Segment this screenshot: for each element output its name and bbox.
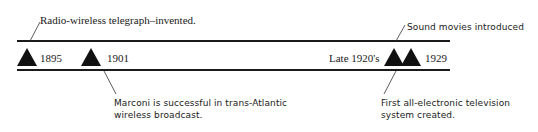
event-note-1895: Radio-wireless telegraph–invented. — [40, 14, 196, 26]
event-note-late-1920s-line-1: First all-electronic television — [381, 97, 510, 109]
leader-line-1895 — [30, 22, 40, 41]
event-year-1895: 1895 — [40, 52, 62, 64]
leader-line-1901 — [104, 71, 116, 94]
event-note-1901-line-2: wireless broadcast. — [114, 109, 287, 121]
triangle-icon — [81, 48, 101, 66]
event-year-late-1920s: Late 1920's — [329, 52, 380, 64]
leader-line-1929 — [396, 25, 405, 41]
event-year-1901: 1901 — [107, 52, 129, 64]
triangle-icon — [17, 48, 37, 66]
event-note-1901-line-1: Marconi is successful in trans-Atlantic — [114, 97, 287, 109]
leader-line-late-1920s — [384, 71, 396, 94]
event-year-1929: 1929 — [425, 52, 447, 64]
event-note-late-1920s: First all-electronic television system c… — [381, 97, 510, 121]
event-note-late-1920s-line-2: system created. — [381, 109, 510, 121]
event-note-1901: Marconi is successful in trans-Atlantic … — [114, 97, 287, 121]
event-note-1929: Sound movies introduced — [407, 21, 524, 33]
triangle-icon — [401, 48, 421, 66]
